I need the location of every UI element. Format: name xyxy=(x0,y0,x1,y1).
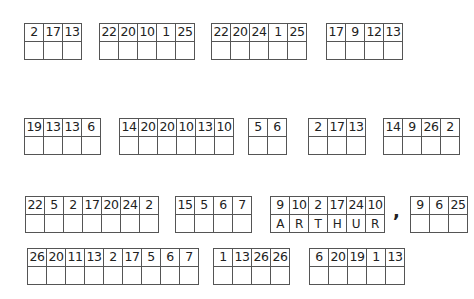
cipher-number-cell: 20 xyxy=(102,197,121,215)
answer-letter-cell[interactable] xyxy=(177,137,196,155)
answer-letter-cell[interactable] xyxy=(64,215,83,233)
answer-letter-cell[interactable] xyxy=(329,267,348,285)
answer-letter-cell[interactable] xyxy=(25,42,44,60)
cipher-number-cell: 13 xyxy=(63,119,82,137)
answer-letter-cell[interactable] xyxy=(102,215,121,233)
answer-letter-cell[interactable] xyxy=(176,42,195,60)
answer-letter-cell[interactable] xyxy=(231,42,250,60)
answer-letter-cell[interactable] xyxy=(25,137,44,155)
answer-letter-cell[interactable] xyxy=(310,267,329,285)
answer-letter-cell[interactable] xyxy=(328,137,347,155)
answer-letter-cell[interactable] xyxy=(252,267,271,285)
answer-letter-cell[interactable] xyxy=(441,137,460,155)
answer-letter-cell[interactable] xyxy=(120,137,139,155)
cipher-number-cell: 5 xyxy=(195,197,214,215)
answer-letter-cell[interactable] xyxy=(233,215,252,233)
word-group: 142020101310 xyxy=(119,118,234,155)
answer-letter-cell[interactable] xyxy=(142,267,161,285)
cipher-number-cell: 20 xyxy=(119,24,138,42)
cipher-number-cell: 26 xyxy=(271,249,290,267)
answer-letter-cell[interactable] xyxy=(268,137,287,155)
answer-letter-cell[interactable] xyxy=(63,42,82,60)
answer-letter-cell[interactable] xyxy=(63,137,82,155)
answer-letter-cell[interactable] xyxy=(403,137,422,155)
cipher-number-cell: 12 xyxy=(365,24,384,42)
answer-letter-cell[interactable] xyxy=(123,267,142,285)
answer-letter-cell[interactable] xyxy=(139,137,158,155)
answer-letter-cell[interactable] xyxy=(384,137,403,155)
cipher-number-cell: 22 xyxy=(26,197,45,215)
answer-letter-cell[interactable] xyxy=(249,137,268,155)
cipher-number-cell: 6 xyxy=(310,249,329,267)
word-group: 1913136 xyxy=(24,118,101,155)
cipher-number-cell: 20 xyxy=(47,249,66,267)
answer-letter-cell[interactable] xyxy=(157,42,176,60)
answer-letter-cell[interactable] xyxy=(140,215,159,233)
answer-letter-cell[interactable]: H xyxy=(328,215,347,233)
answer-letter-cell[interactable] xyxy=(85,267,104,285)
answer-letter-cell[interactable] xyxy=(100,42,119,60)
cipher-number-cell: 2 xyxy=(104,249,123,267)
answer-letter-cell[interactable]: R xyxy=(290,215,309,233)
cipher-number-cell: 26 xyxy=(28,249,47,267)
answer-letter-cell[interactable] xyxy=(180,267,199,285)
answer-letter-cell[interactable] xyxy=(28,267,47,285)
answer-letter-cell[interactable] xyxy=(83,215,102,233)
answer-letter-cell[interactable] xyxy=(430,215,449,233)
answer-letter-cell[interactable] xyxy=(195,215,214,233)
answer-letter-cell[interactable]: A xyxy=(271,215,290,233)
answer-letter-cell[interactable] xyxy=(66,267,85,285)
answer-letter-cell[interactable] xyxy=(44,42,63,60)
cipher-number-cell: 20 xyxy=(158,119,177,137)
cipher-number-cell: 6 xyxy=(430,197,449,215)
answer-letter-cell[interactable] xyxy=(422,137,441,155)
answer-letter-cell[interactable] xyxy=(119,42,138,60)
answer-letter-cell[interactable] xyxy=(138,42,157,60)
answer-letter-cell[interactable] xyxy=(347,137,366,155)
answer-letter-cell[interactable] xyxy=(327,42,346,60)
answer-letter-cell[interactable] xyxy=(250,42,269,60)
answer-letter-cell[interactable] xyxy=(121,215,140,233)
answer-letter-cell[interactable] xyxy=(212,42,231,60)
cipher-number-cell: 5 xyxy=(45,197,64,215)
cipher-number-cell: 24 xyxy=(250,24,269,42)
answer-letter-cell[interactable] xyxy=(214,267,233,285)
cipher-number-cell: 26 xyxy=(252,249,271,267)
answer-letter-cell[interactable] xyxy=(82,137,101,155)
answer-letter-cell[interactable] xyxy=(215,137,234,155)
answer-letter-cell[interactable]: T xyxy=(309,215,328,233)
answer-letter-cell[interactable] xyxy=(214,215,233,233)
cipher-number-cell: 10 xyxy=(138,24,157,42)
answer-letter-cell[interactable] xyxy=(449,215,468,233)
answer-letter-cell[interactable] xyxy=(271,267,290,285)
answer-letter-cell[interactable] xyxy=(411,215,430,233)
cipher-number-cell: 26 xyxy=(422,119,441,137)
cipher-number-cell: 25 xyxy=(288,24,307,42)
answer-letter-cell[interactable] xyxy=(176,215,195,233)
answer-letter-cell[interactable] xyxy=(365,42,384,60)
answer-letter-cell[interactable] xyxy=(386,267,405,285)
answer-letter-cell[interactable] xyxy=(158,137,177,155)
answer-letter-cell[interactable] xyxy=(104,267,123,285)
answer-letter-cell[interactable] xyxy=(269,42,288,60)
answer-letter-cell[interactable] xyxy=(26,215,45,233)
answer-letter-cell[interactable] xyxy=(45,215,64,233)
answer-letter-cell[interactable] xyxy=(288,42,307,60)
answer-letter-cell[interactable] xyxy=(47,267,66,285)
answer-letter-cell[interactable] xyxy=(367,267,386,285)
answer-letter-cell[interactable] xyxy=(196,137,215,155)
answer-letter-cell[interactable] xyxy=(348,267,367,285)
answer-letter-cell[interactable] xyxy=(233,267,252,285)
cipher-number-cell: 13 xyxy=(63,24,82,42)
answer-letter-cell[interactable] xyxy=(44,137,63,155)
word-group: 222010125 xyxy=(99,23,195,60)
word-group: 9102172410ARTHUR xyxy=(270,196,385,233)
answer-letter-cell[interactable]: R xyxy=(366,215,385,233)
cipher-number-cell: 17 xyxy=(328,197,347,215)
answer-letter-cell[interactable]: U xyxy=(347,215,366,233)
answer-letter-cell[interactable] xyxy=(346,42,365,60)
cipher-number-cell: 7 xyxy=(233,197,252,215)
answer-letter-cell[interactable] xyxy=(161,267,180,285)
answer-letter-cell[interactable] xyxy=(309,137,328,155)
answer-letter-cell[interactable] xyxy=(384,42,403,60)
